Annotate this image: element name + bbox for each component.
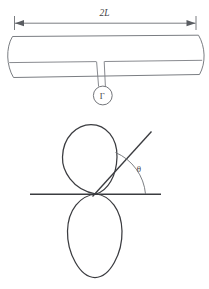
figure-root: 2L Γ [0,0,209,289]
upper-lobe [62,125,117,195]
lower-lobe [67,194,122,278]
angle-annotation-theta: θ [116,153,146,195]
tube-body [8,35,204,77]
inclined-ray [93,132,152,197]
arrow-right-icon [187,20,196,26]
angle-label-theta: θ [137,164,141,174]
figure-eight-lobes [62,125,122,278]
dimension-annotation-2L: 2L [15,8,197,30]
tube-top-edge [13,35,199,36]
circulation-slot [97,62,106,87]
tube-left-cap [8,37,14,78]
arrow-left-icon [15,20,24,26]
tube-inner-edge-left [9,62,96,63]
technical-diagram: 2L Γ [0,0,209,289]
tube-bottom-edge [14,75,200,78]
slot-left-wall [97,62,99,87]
tube-inner-edge-right [104,60,202,61]
dimension-label-2L: 2L [99,8,109,18]
circulation-marker: Γ [93,86,112,105]
gamma-symbol-label: Γ [100,91,105,101]
slot-right-wall [104,62,105,87]
tube-right-cap [199,35,205,74]
